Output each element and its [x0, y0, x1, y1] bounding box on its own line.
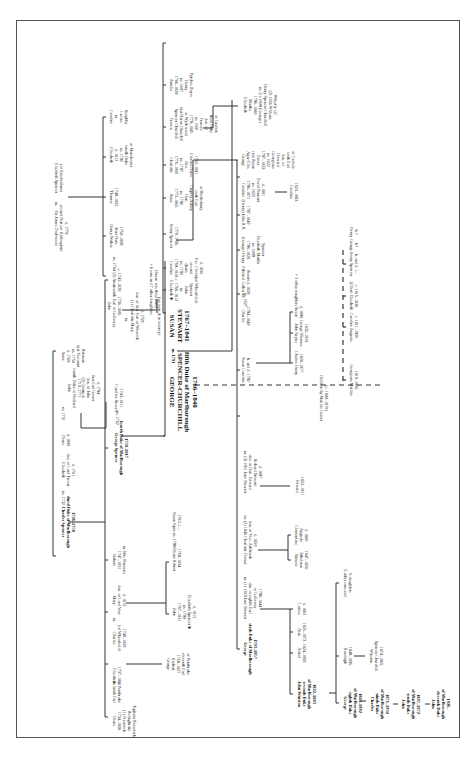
person-node-m-dashwood: m.	[54, 202, 59, 206]
node-text-line: (Henry) John R.N.	[241, 199, 246, 230]
node-text-line: sixth Earl	[194, 190, 199, 207]
person-node-two-daughters: + 2 other daughters	[294, 274, 299, 307]
node-text-line: Anne	[169, 193, 174, 202]
node-text-line: Vsc. Clifden	[194, 257, 199, 279]
node-text-line: George	[343, 696, 348, 710]
node-text-line: d. 1761	[71, 464, 76, 477]
node-text-line: 1779–1845	[189, 115, 194, 134]
person-node-elizabeth-spencer-rendlesham: Elizabeth Spencer(of Rendlesham)	[54, 163, 64, 194]
node-text-line: m. (2) 1846 Charlotte Flower	[243, 515, 248, 565]
node-text-line: (of Wheatfield)	[194, 277, 199, 303]
node-text-line: Charles	[112, 632, 117, 645]
node-text-line: Amelia	[169, 79, 174, 91]
node-text-line: Caroline	[109, 110, 114, 125]
node-text-line: George Spencer	[114, 433, 119, 463]
person-node-john-4th-bedford: Johnfourth Duke of Bedford1710–1771	[67, 368, 82, 409]
node-text-line: m. 1809	[251, 243, 256, 257]
node-text-line: m. 1790	[182, 605, 187, 619]
node-text-line: Elizabeth Spencer	[54, 163, 59, 194]
node-text-line: m. 1792	[179, 261, 184, 275]
node-text-line: Georgiana	[271, 151, 276, 169]
person-node-caroline-1823: Caroline1823–1883	[289, 183, 299, 202]
node-text-line: Herbert	[171, 658, 176, 672]
node-text-line: fourth Duke of Marlborough	[119, 421, 124, 476]
node-text-line: Caroline	[241, 183, 246, 198]
node-text-line: Benett d. 1839	[246, 270, 251, 295]
node-text-line: 1740–1820	[122, 629, 127, 648]
node-text-line: Howard	[276, 153, 281, 167]
node-text-line: dau. of John	[86, 378, 91, 399]
node-text-line: 1793–1857	[253, 639, 258, 660]
node-text-line: Alfred	[297, 648, 302, 660]
person-node-george-4th-duke: George Spencerfourth Duke of Marlborough…	[114, 421, 129, 476]
node-text-line: 1747–1831	[117, 551, 122, 570]
node-text-line: John	[401, 699, 406, 709]
person-node-george-6th-duke: Georgesixth Duke of Marlborough1793–1857	[243, 623, 258, 675]
node-text-line: Elizabeth	[243, 97, 248, 114]
node-text-line: fourth Duke	[124, 145, 129, 165]
person-node-charlotte-mary: (1) Charlotte Marydau. of first Earl of …	[130, 292, 145, 341]
node-text-line: d. 1812	[114, 149, 119, 162]
node-text-line: Anne	[61, 351, 66, 360]
node-text-line: d. 1882	[302, 603, 307, 616]
person-node-sir-james-dashwood: Sir James Dashwoodsecond Bart (of Kirtli…	[54, 205, 69, 252]
node-text-line: Caroline	[169, 261, 174, 276]
node-text-line: John	[431, 699, 436, 709]
person-node-george-henry: (George) Henry1796–1828m. 1809Elizabeth …	[241, 236, 266, 265]
node-text-line: c. 1811–1905	[354, 316, 359, 339]
node-text-line: d. 1897	[258, 466, 263, 479]
person-node-francis-wychwood: FrancisSpencer Churchillfirst Baron Chur…	[169, 107, 219, 143]
node-text-line: of Marlborough	[441, 689, 446, 720]
node-text-line: 1797–1840	[246, 206, 251, 225]
node-text-line: of Wychwood	[184, 112, 189, 136]
node-text-line: fifth Duke of Marlborough	[183, 352, 191, 432]
node-text-line: 1734–1808	[117, 712, 122, 731]
node-text-line: 1871–1934	[385, 694, 390, 715]
node-text-line: 1825–1873	[302, 623, 307, 642]
node-text-line: d. 1794	[96, 382, 101, 395]
node-text-line: sixth Earl	[286, 152, 291, 169]
node-text-line: (born	[184, 263, 189, 273]
person-node-galloway-m: m.	[124, 318, 129, 322]
node-text-line: Charles	[370, 697, 375, 712]
person-node-m-pembroke: m. tenth Earlof Pembroke	[112, 681, 122, 704]
node-text-line: m. 1764	[112, 257, 117, 272]
node-text-line: d. 1759	[140, 310, 145, 323]
node-text-line: Caroline Augusta	[349, 312, 354, 341]
node-text-line: John	[107, 302, 112, 311]
node-text-line: 1794–1840	[246, 307, 251, 326]
node-text-line: dau. of Visc. Ashbrook	[248, 521, 253, 560]
node-text-line: 1853–1911	[300, 477, 305, 496]
node-text-line: Susan Caroline	[241, 357, 246, 383]
node-text-line: SUSAN	[168, 315, 176, 338]
node-text-line: eighth Duke	[348, 692, 353, 715]
person-node-john-wheatfield: John1767–1831m. 1790Elizabeth Spencer ✱d…	[172, 595, 197, 630]
node-text-line: m. 1791	[172, 533, 177, 547]
node-text-line: of Shaftesbury	[199, 186, 204, 211]
person-node-children-matilda: Children by Matilda Glover(c. 1800–1870)	[319, 375, 329, 422]
person-node-clementina: ClementinaAugustad. 1886	[294, 525, 309, 544]
node-text-line: d. 1769	[66, 350, 71, 363]
person-node-m3-jane: m. (3) 1851 Jane Stewartdau. of Hon. Edw…	[243, 451, 263, 494]
node-text-line: 1810–1866	[354, 371, 359, 390]
person-node-m-charles: m.	[112, 618, 117, 622]
node-text-line: fourth Duke of Bedford	[72, 368, 77, 409]
node-text-line: (of Rendlesham)	[59, 164, 64, 193]
node-text-line: m. 1797	[179, 158, 184, 172]
node-text-line: Elizabeth ✱	[169, 280, 174, 301]
person-node-amelia: Amelia1786–1829m. 1807HenryPytches Boyce	[169, 73, 194, 98]
node-text-line: c. 1768–1812	[174, 279, 179, 302]
node-text-line: of Pembroke	[186, 653, 191, 675]
node-text-line: (of Wheatfield)	[117, 625, 122, 651]
node-text-line: 1767–1841	[183, 310, 191, 342]
node-text-line: 1750–1809	[119, 227, 124, 246]
node-text-line: d. 1779	[64, 222, 69, 235]
node-text-line: 1767–1831	[177, 603, 182, 622]
node-text-line: Caroline	[289, 185, 294, 200]
node-text-line: 1759–1827	[176, 655, 181, 674]
node-text-line: Diana	[61, 435, 66, 445]
node-text-line: Augusta	[299, 528, 304, 542]
node-text-line: 1828–1877	[299, 354, 304, 373]
node-text-line: Elizabeth Martha	[256, 236, 261, 265]
node-text-line: of Galloway	[253, 588, 258, 610]
